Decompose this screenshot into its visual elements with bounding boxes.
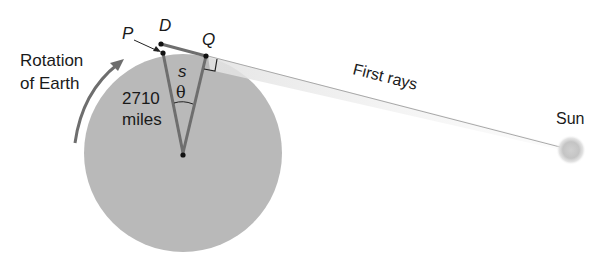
point-p-label: P [122,24,134,43]
point-q-label: Q [202,30,215,49]
angle-theta-label: θ [176,83,186,102]
first-rays-label: First rays [351,60,419,92]
earth-sun-diagram: Rotation of Earth 2710 miles P D Q s θ F… [0,0,602,257]
center-dot [180,152,185,157]
rotation-label-line2: of Earth [20,74,80,93]
distance-value-label: 2710 [122,89,160,108]
point-d-dot [158,41,163,46]
arc-s-label: s [178,62,187,81]
distance-unit-label: miles [122,110,162,129]
point-p-dot [160,50,165,55]
sun-label: Sun [556,110,584,127]
point-q-dot [203,53,208,58]
rotation-label-line1: Rotation [20,51,83,70]
sun-icon [556,135,586,165]
point-d-label: D [159,16,171,35]
